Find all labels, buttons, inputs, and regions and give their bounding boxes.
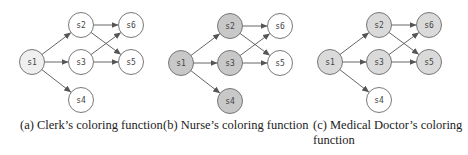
node-s4-clerk: s4 [69,88,94,113]
node-label: s4 [225,97,235,106]
node-s3-clerk: s3 [69,50,94,75]
node-label: s2 [374,21,384,30]
node-label: s5 [126,58,136,67]
panel-doctor-graph: s1s2s3s4s5s6 [318,13,442,113]
node-s4-nurse: s4 [218,89,243,114]
node-label: s4 [374,96,384,105]
node-s1-clerk: s1 [20,50,45,75]
edge-s1-s2 [191,34,220,56]
node-label: s2 [76,21,86,30]
node-s6-nurse: s6 [268,14,293,39]
node-s5-doctor: s5 [417,50,442,75]
coloring-functions-figure: s1s2s3s4s5s6 s1s2s3s4s5s6 s1s2s3s4s5s6 (… [0,0,468,155]
node-label: s3 [374,58,384,67]
caption-clerk: (a) Clerk’s coloring function [20,118,170,133]
node-label: s5 [424,58,434,67]
node-s3-nurse: s3 [218,51,243,76]
node-s3-doctor: s3 [367,50,392,75]
node-s5-clerk: s5 [119,50,144,75]
node-label: s3 [76,58,86,67]
caption-medical-doctor: (c) Medical Doctor’s coloring function [313,118,463,148]
node-label: s6 [424,21,434,30]
node-label: s4 [76,96,86,105]
node-label: s1 [176,59,186,68]
node-s1-nurse: s1 [169,51,194,76]
caption-nurse: (b) Nurse’s coloring function [163,118,313,133]
node-s2-clerk: s2 [69,13,94,38]
node-s1-doctor: s1 [318,50,343,75]
node-s2-doctor: s2 [367,13,392,38]
edge-s1-s2 [340,33,369,55]
node-s5-nurse: s5 [268,51,293,76]
node-label: s1 [27,58,37,67]
node-label: s3 [225,59,235,68]
node-label: s2 [225,22,235,31]
node-label: s6 [126,21,136,30]
node-label: s6 [275,22,285,31]
edge-s1-s4 [191,71,220,93]
node-s6-clerk: s6 [119,13,144,38]
edge-s1-s4 [340,70,369,92]
panel-clerk-graph: s1s2s3s4s5s6 [20,13,144,113]
panel-nurse-graph: s1s2s3s4s5s6 [169,14,293,114]
node-label: s1 [325,58,335,67]
node-s6-doctor: s6 [417,13,442,38]
node-label: s5 [275,59,285,68]
graphs-canvas: s1s2s3s4s5s6 s1s2s3s4s5s6 s1s2s3s4s5s6 [0,0,468,115]
node-s2-nurse: s2 [218,14,243,39]
edge-s1-s4 [42,70,71,92]
node-s4-doctor: s4 [367,88,392,113]
edge-s1-s2 [42,33,71,55]
